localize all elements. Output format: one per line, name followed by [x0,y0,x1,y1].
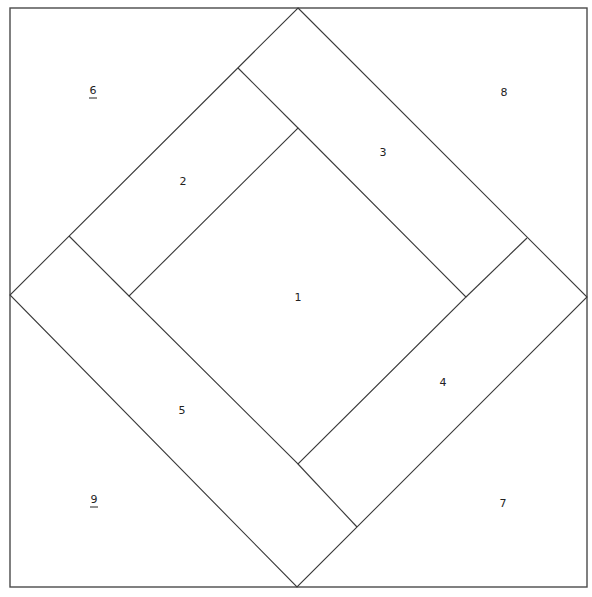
piece-label-3: 3 [380,146,387,159]
piece-label-2: 2 [180,175,187,188]
piece-label-9: 9 [91,493,98,506]
piece-label-8: 8 [501,86,508,99]
piece-label-4: 4 [440,376,447,389]
quilt-block-diagram: 1 2 3 4 5 6 7 8 9 [0,0,592,597]
piece-label-1: 1 [295,291,302,304]
piece-label-7: 7 [500,497,507,510]
piece-label-6: 6 [90,84,97,97]
piece-label-5: 5 [179,404,186,417]
